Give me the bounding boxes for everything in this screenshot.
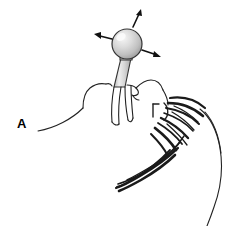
arrow-left bbox=[94, 32, 112, 39]
chest-neck-line bbox=[38, 108, 83, 131]
arrow-left-head bbox=[94, 32, 101, 39]
lip-notch bbox=[106, 84, 112, 86]
tube-far-edge bbox=[131, 86, 133, 118]
nose-bridge bbox=[136, 80, 163, 90]
hair-strand bbox=[155, 128, 176, 150]
arrow-up-head bbox=[136, 9, 142, 16]
shoulder-outline bbox=[200, 109, 221, 226]
mouth-corner bbox=[133, 96, 139, 100]
mouthpiece-stem[interactable] bbox=[112, 53, 133, 125]
tube-bottom-2 bbox=[128, 118, 133, 122]
tube-bottom bbox=[112, 122, 119, 125]
hair-strand bbox=[118, 142, 180, 184]
hair-group bbox=[116, 97, 205, 191]
tube-left-edge bbox=[112, 87, 114, 122]
hair-strand bbox=[127, 136, 184, 180]
upper-back-line bbox=[205, 112, 221, 153]
ear-helix bbox=[164, 103, 168, 120]
illustration-canvas: A bbox=[0, 0, 235, 226]
arrow-right-head bbox=[153, 51, 161, 57]
jaw-contour bbox=[83, 84, 106, 108]
stem-shaft bbox=[114, 58, 131, 87]
ball-sphere[interactable] bbox=[112, 29, 142, 59]
panel-label: A bbox=[17, 116, 27, 131]
tube-mid-edge bbox=[119, 87, 121, 124]
figure-panel: A bbox=[0, 0, 235, 226]
tube-right-edge bbox=[125, 87, 128, 120]
arrow-right bbox=[142, 50, 161, 57]
arrow-up bbox=[133, 9, 142, 27]
